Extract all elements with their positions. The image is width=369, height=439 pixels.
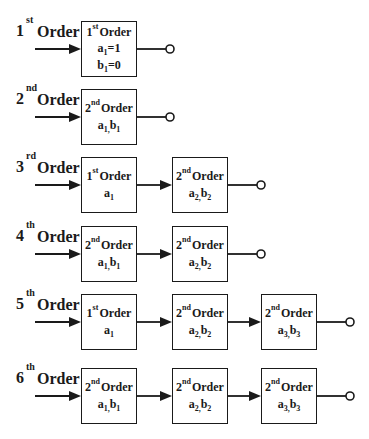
cascade-arrow-arrowhead-icon — [249, 317, 261, 327]
input-arrow-arrowhead-icon — [69, 112, 81, 122]
input-arrow-arrowhead-icon — [69, 44, 81, 54]
cascade-arrow-arrowhead-icon — [249, 391, 261, 401]
connection-wires — [0, 0, 369, 439]
output-terminal-icon — [346, 392, 354, 400]
cascade-arrow-arrowhead-icon — [160, 391, 172, 401]
cascade-arrow-arrowhead-icon — [160, 249, 172, 259]
output-terminal-icon — [346, 318, 354, 326]
input-arrow-arrowhead-icon — [69, 249, 81, 259]
input-arrow-arrowhead-icon — [69, 391, 81, 401]
output-terminal-icon — [257, 181, 265, 189]
cascade-arrow-arrowhead-icon — [160, 180, 172, 190]
output-terminal-icon — [166, 113, 174, 121]
output-terminal-icon — [257, 250, 265, 258]
cascade-arrow-arrowhead-icon — [160, 317, 172, 327]
input-arrow-arrowhead-icon — [69, 317, 81, 327]
input-arrow-arrowhead-icon — [69, 180, 81, 190]
output-terminal-icon — [166, 45, 174, 53]
